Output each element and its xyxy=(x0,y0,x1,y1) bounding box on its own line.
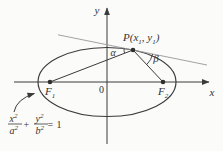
equation-plus: + xyxy=(24,119,30,130)
alpha-angle-arc xyxy=(124,48,125,53)
equation-equals: = xyxy=(48,119,54,130)
beta-label: β xyxy=(152,52,159,64)
equation-fraction-2-denominator: b2 xyxy=(36,124,45,136)
point-p-label: P(x1, y1) xyxy=(122,31,160,46)
equation-result: 1 xyxy=(57,119,62,130)
annotation-arrow xyxy=(14,94,35,113)
equation-fraction-1-denominator: a2 xyxy=(10,124,19,136)
focus-2-dot xyxy=(161,80,166,85)
x-axis-label: x xyxy=(209,86,215,98)
alpha-label: α xyxy=(110,47,116,58)
equation-fraction-1-numerator: x2 xyxy=(9,112,18,124)
ellipse-equation: x2 a2 + y2 b2 = 1 xyxy=(8,112,62,137)
figure-canvas: y x 0 P(x1, y1) F1 F2 α β x2 a2 + xyxy=(0,0,223,151)
origin-label: 0 xyxy=(99,84,104,95)
equation-fraction-2-numerator: y2 xyxy=(35,112,44,124)
y-axis-label: y xyxy=(94,4,100,16)
focus-1-dot xyxy=(48,80,53,85)
focus-2-label: F2 xyxy=(157,85,169,100)
ellipse-diagram: y x 0 P(x1, y1) F1 F2 α β x2 a2 + xyxy=(0,0,223,151)
segment-f1-p xyxy=(50,50,133,82)
point-p-dot xyxy=(131,48,136,53)
